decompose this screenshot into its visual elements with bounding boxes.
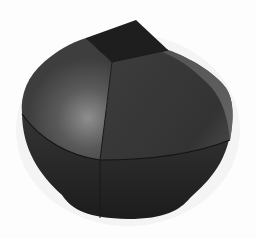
knob-render <box>0 0 256 238</box>
knob-upper-right-face <box>100 50 233 160</box>
render-scene <box>0 0 256 238</box>
